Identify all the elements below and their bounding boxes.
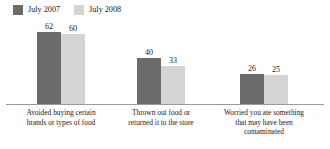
- legend-swatch-july-2007: [13, 5, 23, 15]
- category-label-line: Worried you ate something: [208, 108, 320, 118]
- bar-value-label: 26: [248, 64, 256, 73]
- legend-item-july-2008: July 2008: [74, 5, 121, 15]
- bar-rect-july-2008: [264, 75, 288, 105]
- bar-column-1-0: 40: [137, 22, 161, 105]
- x-axis-baseline: [6, 104, 324, 105]
- category-label-line: contaminated: [208, 127, 320, 137]
- category-label-line: returned it to the store: [105, 118, 217, 128]
- bar-rect-july-2007: [137, 58, 161, 105]
- category-label-0: Avoided buying certainbrands or types of…: [5, 108, 117, 127]
- bar-column-0-1: 60: [61, 22, 85, 105]
- bar-value-label: 40: [145, 48, 153, 57]
- bar-rect-july-2007: [240, 74, 264, 105]
- legend-swatch-july-2008: [74, 5, 84, 15]
- category-label-1: Thrown out food orreturned it to the sto…: [105, 108, 217, 127]
- category-label-line: brands or types of food: [5, 118, 117, 128]
- bar-value-label: 60: [69, 24, 77, 33]
- category-label-line: that may have been: [208, 118, 320, 128]
- bar-value-label: 62: [45, 22, 53, 31]
- plot-area: 62 60 40 33: [0, 22, 330, 105]
- bar-rect-july-2008: [161, 66, 185, 105]
- bar-value-label: 33: [169, 56, 177, 65]
- bar-rect-july-2007: [37, 32, 61, 105]
- category-label-line: Thrown out food or: [105, 108, 217, 118]
- bar-value-label: 25: [272, 65, 280, 74]
- bar-column-2-1: 25: [264, 22, 288, 105]
- bar-column-0-0: 62: [37, 22, 61, 105]
- category-label-2: Worried you ate somethingthat may have b…: [208, 108, 320, 137]
- legend-label-july-2007: July 2007: [28, 5, 60, 15]
- bar-chart: July 2007 July 2008 62 60 4: [0, 0, 330, 149]
- chart-legend: July 2007 July 2008: [13, 4, 121, 16]
- x-axis-category-labels: Avoided buying certainbrands or types of…: [0, 108, 330, 149]
- bar-column-1-1: 33: [161, 22, 185, 105]
- bar-rect-july-2008: [61, 34, 85, 105]
- category-label-line: Avoided buying certain: [5, 108, 117, 118]
- legend-item-july-2007: July 2007: [13, 5, 60, 15]
- legend-label-july-2008: July 2008: [89, 5, 121, 15]
- bar-column-2-0: 26: [240, 22, 264, 105]
